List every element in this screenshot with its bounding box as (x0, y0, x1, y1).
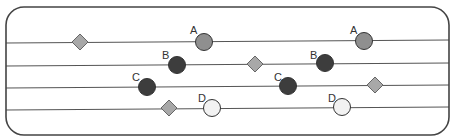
particle-d (334, 99, 351, 116)
track-line-2 (6, 63, 449, 66)
particle-d (204, 100, 221, 117)
particle-c (139, 79, 156, 96)
diamond-marker (367, 77, 383, 93)
particle-b (317, 55, 334, 72)
particle-a (196, 34, 213, 51)
particle-label: D (328, 92, 336, 104)
particle-label: A (190, 24, 198, 36)
particle-c (280, 78, 297, 95)
particle-label: B (310, 49, 317, 61)
diagram-canvas: ABCDABCD (0, 0, 456, 138)
particle-label: A (350, 24, 358, 36)
particle-label: C (274, 71, 282, 83)
diamond-marker (72, 34, 88, 50)
diamond-marker (247, 56, 263, 72)
particle-a (356, 33, 373, 50)
diagram-frame (6, 7, 449, 135)
particle-b (169, 57, 186, 74)
particle-label: C (132, 71, 140, 83)
diamond-marker (161, 100, 177, 116)
track-line-4 (6, 107, 449, 110)
particle-label: B (162, 49, 169, 61)
particle-label: D (198, 92, 206, 104)
